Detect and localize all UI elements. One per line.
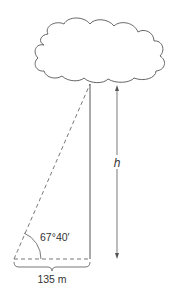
angle-arc xyxy=(24,233,41,259)
cloud-height-diagram: h 67°40′ 135 m xyxy=(0,0,175,297)
base-brace xyxy=(14,262,90,271)
angle-label: 67°40′ xyxy=(40,231,70,243)
height-label: h xyxy=(114,156,121,170)
cloud-shape xyxy=(35,18,164,83)
arrow-head-down-icon xyxy=(115,253,119,259)
arrow-head-up-icon xyxy=(115,85,119,91)
base-distance-label: 135 m xyxy=(37,273,66,285)
